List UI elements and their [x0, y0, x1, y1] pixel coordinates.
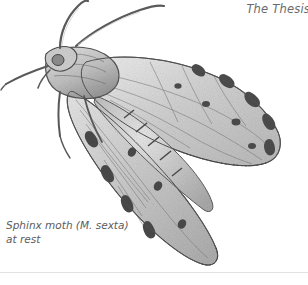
right-antenna	[76, 6, 164, 46]
caption-line-2: at rest	[6, 233, 129, 247]
figure-caption: Sphinx moth (M. sexta) at rest	[6, 219, 129, 246]
caption-line-1: Sphinx moth (M. sexta)	[6, 219, 129, 233]
foreleg-tarsus	[1, 84, 6, 90]
compound-eye	[52, 55, 64, 66]
midleg	[59, 92, 61, 136]
page-canvas: The Thesis	[0, 0, 308, 285]
midleg-tarsus	[60, 136, 70, 158]
right-antenna-highlight	[78, 12, 140, 45]
bottom-rule	[0, 272, 308, 273]
